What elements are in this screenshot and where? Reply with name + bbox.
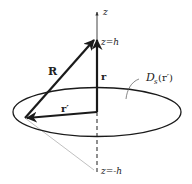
z-equals-minus-h-label: z=-h — [100, 166, 122, 176]
geometry-diagram: z z=h z=-h R r r′ D s (r′) — [0, 0, 192, 184]
vector-r-label: r — [101, 71, 107, 82]
vector-R-label: R — [48, 65, 58, 78]
vector-R — [25, 40, 94, 118]
surface-label: D s (r′) — [145, 71, 173, 86]
z-equals-h-label: z=h — [100, 37, 119, 47]
surface-label-arg: (r′) — [158, 72, 173, 83]
z-axis-label: z — [102, 7, 108, 17]
vector-r-prime-label: r′ — [61, 103, 69, 114]
image-line — [25, 118, 94, 170]
